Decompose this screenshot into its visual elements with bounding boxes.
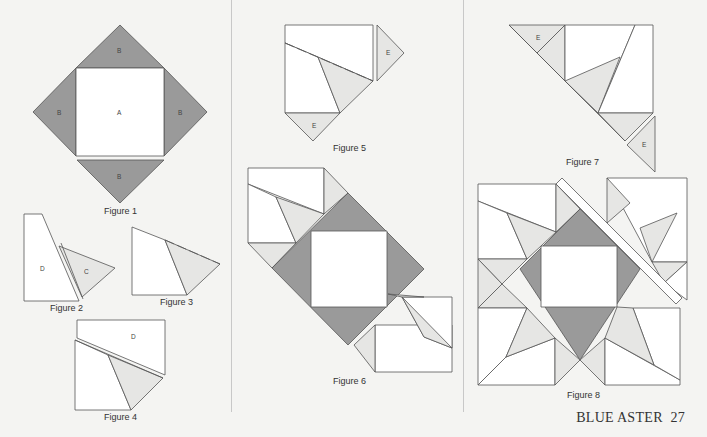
figure-1-caption: Figure 1 [104,206,137,216]
figure-7-caption: Figure 7 [566,157,599,167]
figure-5-caption: Figure 5 [333,143,366,153]
figure-6-caption: Figure 6 [333,376,366,386]
figure-2-label-c: C [84,268,89,275]
figure-2-label-d: D [40,265,45,272]
footer-title: BLUE ASTER [576,410,663,425]
figure-1-label-left: B [57,109,61,116]
figure-8-diagram [478,178,687,385]
figure-8-caption: Figure 8 [567,390,600,400]
figure-1-label-top: B [117,47,121,54]
figure-1-label-bottom: B [117,173,121,180]
figure-4-label-d: D [131,333,136,340]
figure-5-label-e1: E [386,49,390,56]
figure-5-label-e2: E [312,122,316,129]
figure-3-diagram [132,227,220,295]
figure-4-caption: Figure 4 [104,412,137,422]
figure-7-label-e2: E [642,141,646,148]
figure-6-diagram [248,168,452,372]
figure-5-diagram [285,25,404,141]
figure-7-label-e1: E [536,34,540,41]
footer-page-number: 27 [670,410,685,425]
quilt-diagrams [0,0,707,437]
page-footer: BLUE ASTER 27 [576,410,685,426]
figure-3-caption: Figure 3 [160,297,193,307]
figure-7-diagram [509,25,655,172]
figure-1-label-right: B [178,109,182,116]
figure-1-label-center: A [117,109,121,116]
figure-2-diagram [24,214,115,301]
figure-4-diagram [75,320,165,410]
figure-2-caption: Figure 2 [50,303,83,313]
